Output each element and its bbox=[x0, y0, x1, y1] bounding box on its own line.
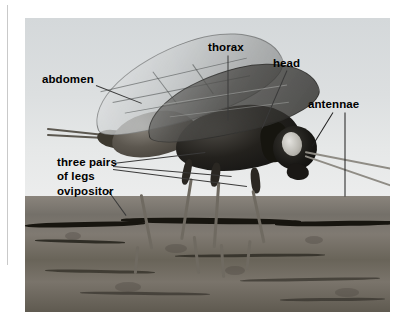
leg-femur bbox=[213, 182, 221, 248]
leader-line-antennae bbox=[345, 113, 346, 197]
figure-stage: abdomenthoraxheadantennaethree pairs of … bbox=[0, 0, 404, 335]
leg-tibia bbox=[134, 246, 139, 274]
leg-tibia bbox=[193, 236, 201, 274]
left-margin-rule bbox=[7, 5, 8, 265]
label-thorax: thorax bbox=[208, 41, 244, 55]
leg-tibia bbox=[245, 240, 251, 270]
leg-femur bbox=[180, 178, 193, 240]
label-abdomen: abdomen bbox=[42, 73, 94, 87]
leader-line-thorax bbox=[228, 56, 229, 121]
leg-tibia bbox=[220, 244, 225, 278]
leg-femur bbox=[140, 194, 154, 250]
label-head: head bbox=[273, 57, 300, 71]
label-legs: three pairs of legs bbox=[57, 156, 117, 183]
leg-femur bbox=[251, 190, 265, 243]
label-ovipositor: ovipositor bbox=[57, 185, 114, 199]
label-antennae: antennae bbox=[308, 98, 359, 112]
